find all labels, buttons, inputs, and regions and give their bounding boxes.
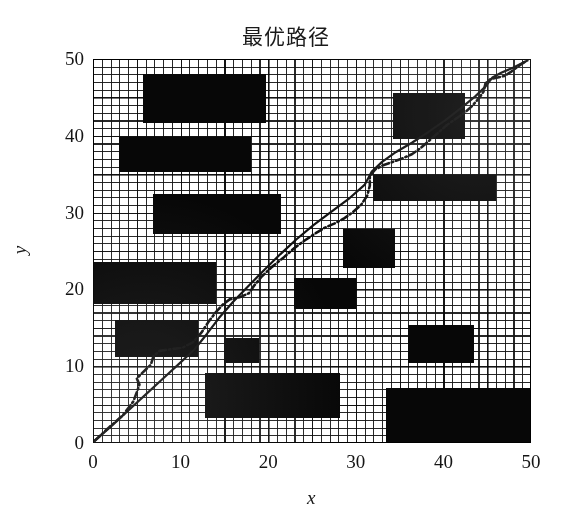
y-tick-label: 0 xyxy=(48,432,84,454)
y-tick-label: 20 xyxy=(48,278,84,300)
chart-figure: 最优路径 01020304050 01020304050 x y xyxy=(0,0,571,528)
optimal-path-smooth xyxy=(95,61,528,441)
x-tick-label: 30 xyxy=(346,451,365,473)
x-tick-label: 50 xyxy=(522,451,541,473)
x-axis-label: x xyxy=(307,487,315,509)
y-tick-label: 30 xyxy=(48,202,84,224)
x-tick-label: 40 xyxy=(434,451,453,473)
plot-area xyxy=(93,59,531,443)
x-tick-label: 20 xyxy=(259,451,278,473)
y-tick-label: 50 xyxy=(48,48,84,70)
chart-title: 最优路径 xyxy=(0,20,571,50)
y-tick-label: 10 xyxy=(48,355,84,377)
x-tick-label: 10 xyxy=(171,451,190,473)
optimal-path-raw xyxy=(95,61,526,440)
path-layer xyxy=(93,59,531,443)
x-tick-label: 0 xyxy=(88,451,98,473)
y-tick-label: 40 xyxy=(48,125,84,147)
y-axis-label: y xyxy=(9,246,31,254)
